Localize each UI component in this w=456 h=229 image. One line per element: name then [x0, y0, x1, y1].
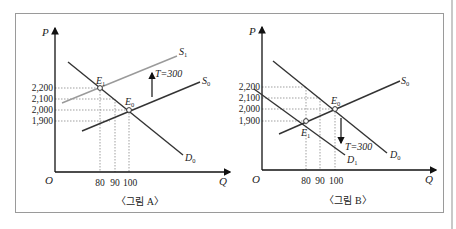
point-label-e1: E: [300, 127, 307, 138]
svg-text:O: O: [252, 173, 260, 185]
svg-text:80: 80: [95, 178, 105, 188]
y-axis-label: P: [248, 25, 256, 37]
svg-text:D0: D0: [184, 152, 195, 164]
origin-label: O: [45, 174, 53, 186]
svg-text:100: 100: [329, 176, 344, 186]
y-tick-2000: 2,000: [32, 105, 54, 115]
point-e1: [304, 119, 309, 124]
svg-text:Q: Q: [425, 173, 433, 185]
demand-curve-d0: [273, 61, 387, 153]
supply-curve-s1: [62, 56, 177, 103]
svg-text:80: 80: [301, 176, 311, 186]
caption-a: 〈그림 A〉: [116, 196, 164, 207]
svg-text:E1: E1: [95, 75, 105, 87]
svg-text:2,200: 2,200: [239, 82, 261, 92]
svg-text:1,900: 1,900: [32, 116, 54, 126]
x-tick-80: 80: [301, 176, 311, 186]
point-label-e0: E: [330, 95, 337, 106]
guide-lines: [262, 87, 335, 170]
svg-text:D1: D1: [346, 154, 357, 166]
y-tick-2200: 2,200: [32, 83, 54, 93]
svg-text:Q: Q: [219, 175, 227, 187]
svg-text:2,000: 2,000: [32, 105, 54, 115]
svg-text:〈그림 A〉: 〈그림 A〉: [116, 196, 164, 207]
svg-text:E0: E0: [124, 96, 134, 108]
point-label-e1: E: [95, 75, 102, 86]
svg-text:S1: S1: [179, 46, 187, 58]
svg-text:D0: D0: [389, 149, 400, 161]
svg-text:S0: S0: [401, 75, 409, 87]
x-tick-90: 90: [110, 178, 120, 188]
y-axis-label: P: [41, 26, 49, 38]
svg-text:E0: E0: [330, 95, 340, 107]
x-tick-80: 80: [95, 178, 105, 188]
svg-text:2,100: 2,100: [239, 93, 261, 103]
svg-text:T=300: T=300: [155, 68, 182, 79]
svg-text:〈그림 B〉: 〈그림 B〉: [324, 195, 371, 206]
svg-text:90: 90: [110, 178, 120, 188]
point-e0: [127, 108, 132, 113]
svg-text:90: 90: [315, 176, 325, 186]
svg-text:2,200: 2,200: [32, 83, 54, 93]
svg-text:100: 100: [123, 178, 138, 188]
y-tick-2100: 2,100: [32, 94, 54, 104]
x-tick-90: 90: [315, 176, 325, 186]
supply-curve-s0: [279, 81, 400, 134]
svg-text:P: P: [41, 26, 49, 38]
svg-text:P: P: [248, 25, 256, 37]
y-tick-2200: 2,200: [239, 82, 261, 92]
x-tick-100: 100: [329, 176, 344, 186]
svg-text:S0: S0: [202, 75, 210, 87]
x-tick-100: 100: [123, 178, 138, 188]
y-tick-1900: 1,900: [239, 116, 261, 126]
figure-b: P O Q 2,200 2,100 2,000 1,900 80 90 100 …: [239, 25, 436, 206]
svg-text:2,000: 2,000: [239, 104, 261, 114]
figure-a: P O Q 2,200 2,100 2,000 1,900 80 90 100 …: [32, 26, 230, 207]
tax-annotation: T=300: [155, 68, 182, 79]
y-tick-2100: 2,100: [239, 93, 261, 103]
origin-label: O: [252, 173, 260, 185]
x-axis-label: Q: [425, 173, 433, 185]
y-tick-2000: 2,000: [239, 104, 261, 114]
point-e0: [333, 107, 338, 112]
svg-text:2,100: 2,100: [32, 94, 54, 104]
svg-text:1,900: 1,900: [239, 116, 261, 126]
point-label-e0: E: [124, 96, 131, 107]
svg-text:O: O: [45, 174, 53, 186]
x-axis-label: Q: [219, 175, 227, 187]
caption-b: 〈그림 B〉: [324, 195, 371, 206]
diagrams: P O Q 2,200 2,100 2,000 1,900 80 90 100 …: [0, 0, 456, 229]
y-tick-1900: 1,900: [32, 116, 54, 126]
tax-annotation: T=300: [345, 141, 372, 152]
svg-text:T=300: T=300: [345, 141, 372, 152]
